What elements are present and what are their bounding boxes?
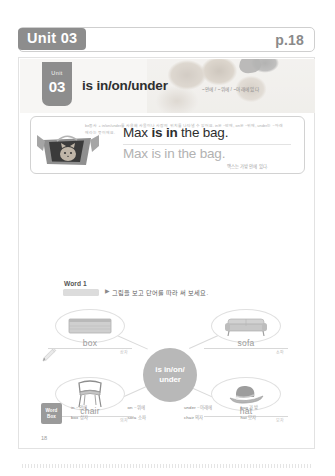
word-box-item-ko: ~위에 [134,405,145,410]
word-label-sofa: sofa [204,338,288,348]
writing-line-sofa[interactable]: sofa 소파 [204,348,288,349]
word-box-item-ko: ~아래에 [197,405,212,410]
grammar-note: be동사 + in/on/under를 사용해 사물이나 사람의 위치를 나타낼… [85,122,285,136]
word-box-item: bag 가방 [241,404,296,410]
word1-chip [63,289,99,296]
word-box-grid: in ~안에 on ~위에 under ~아래에 bag 가방 box 상자 s… [71,404,295,420]
word-box-item: chair 의자 [184,414,239,420]
word-box-item-ko: 상자 [80,415,88,420]
word-box-item: under ~아래에 [184,404,239,410]
bottom-ruler [22,464,313,468]
word-box: Word Box in ~안에 on ~위에 under ~아래에 bag 가방… [41,403,299,429]
sofa-icon [222,314,270,338]
word-box-item-en: bag [241,405,249,410]
unit-banner: Unit 03 is in/on/under ~안에 / ~위에 / ~아래에 … [20,59,315,113]
word-box-item: in ~안에 [71,404,126,410]
page-number-label: p.18 [275,32,304,48]
trace-rule-line [123,144,291,145]
word-box-item: box 상자 [71,414,126,420]
word-box-item-en: on [128,405,133,410]
unit-word-label: Unit [42,71,72,77]
hub-line-2: under [159,375,181,384]
example-sentence-trace[interactable]: Max is in the bag. [123,146,225,161]
word-box-item: on ~위에 [128,404,183,410]
unit-tag: Unit 03 [18,28,86,50]
unit-number-value: 03 [42,79,72,96]
word-box-item-en: chair [184,415,194,420]
word-box-item-ko: 소파 [138,415,146,420]
word-box-tag-line1: Word [45,408,57,413]
word-map-hub: is in/on/ under [143,348,197,402]
box-icon [66,315,114,337]
word-box-item-ko: ~안에 [76,405,87,410]
word-box-tag-line2: Box [47,414,56,419]
word-label-box: box [48,338,132,348]
page-folio: 18 [41,435,47,441]
word-node-sofa: sofa 소파 [193,309,299,349]
word-box-item-ko: 가방 [249,405,257,410]
word-korean-sofa: 소파 [276,349,284,355]
worksheet-page: Unit 03 is in/on/under ~안에 / ~위에 / ~아래에 … [18,57,315,449]
word-box-item-en: under [184,405,196,410]
pencil-icon [41,347,57,363]
word-box-item-ko: 의자 [195,415,203,420]
hub-line-1: is in/on/ [155,365,184,374]
word-box-tag: Word Box [41,403,62,424]
page-header-bar: Unit 03 p.18 [18,27,315,52]
cat-in-bag-image [37,131,99,169]
word-box-item-ko: 모자 [248,415,256,420]
word-box-item-en: sofa [128,415,137,420]
unit-title-korean: ~안에 / ~위에 / ~아래에 있다 [202,86,259,92]
word1-instruction: 그림을 보고 단어를 따라 써 보세요. [112,288,208,297]
unit-title: is in/on/under [82,78,168,93]
arrow-right-icon: ▶ [105,289,110,295]
word-box-item-en: hat [241,415,247,420]
word-korean-box: 상자 [120,349,128,355]
word-box-item-en: box [71,415,78,420]
unit-number-badge: Unit 03 [42,62,72,106]
word-box-item: hat 모자 [241,414,296,420]
word-box-item: sofa 소파 [128,414,183,420]
word1-section-label: Word 1 [64,280,87,287]
word-box-item-en: in [71,405,75,410]
example-sentence-korean: 맥스는 가방 안에 있다. [227,163,268,169]
word-node-box: box 상자 [37,309,143,349]
writing-line-box[interactable]: box 상자 [48,348,132,349]
